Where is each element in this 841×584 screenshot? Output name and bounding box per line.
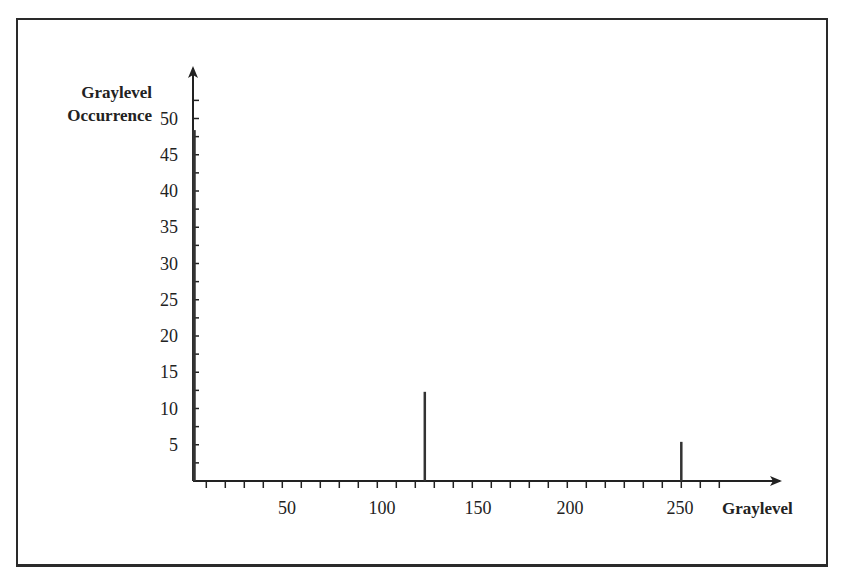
x-tick-label: 200	[557, 498, 584, 518]
y-tick-label: 20	[160, 326, 178, 346]
y-tick-label: 50	[160, 109, 178, 129]
x-tick-label: 100	[369, 498, 396, 518]
x-axis-label: Graylevel	[722, 499, 793, 518]
y-axis-label-line1: Graylevel	[81, 83, 152, 102]
histogram-chart: 510152025303540455050100150200250 Grayle…	[0, 0, 841, 584]
y-tick-label: 35	[160, 217, 178, 237]
histogram-bar	[192, 130, 196, 481]
y-axis-label-line2: Occurrence	[67, 106, 152, 125]
y-tick-label: 5	[169, 435, 178, 455]
y-tick-label: 45	[160, 145, 178, 165]
x-tick-label: 150	[465, 498, 492, 518]
histogram-bar	[680, 442, 683, 481]
y-tick-label: 40	[160, 181, 178, 201]
axes: 510152025303540455050100150200250	[160, 68, 780, 518]
y-tick-label: 15	[160, 362, 178, 382]
histogram-bar	[424, 392, 427, 481]
y-tick-label: 25	[160, 290, 178, 310]
x-tick-label: 50	[278, 498, 296, 518]
x-tick-label: 250	[667, 498, 694, 518]
y-tick-label: 10	[160, 399, 178, 419]
y-tick-label: 30	[160, 254, 178, 274]
bars	[192, 130, 682, 481]
